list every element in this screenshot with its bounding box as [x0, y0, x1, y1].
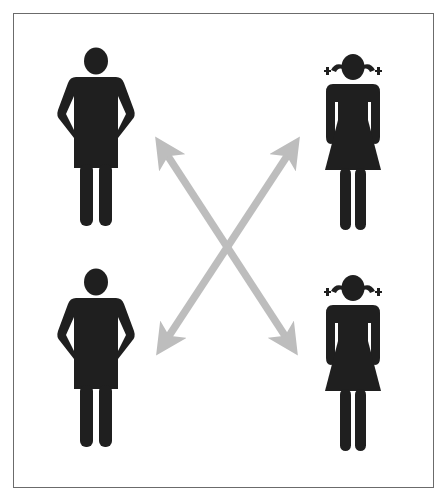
diagram-canvas	[0, 0, 446, 497]
boy-icon	[57, 48, 134, 227]
girl-icon	[324, 54, 382, 230]
boy-icon	[57, 269, 134, 448]
girl-icon	[324, 275, 382, 451]
